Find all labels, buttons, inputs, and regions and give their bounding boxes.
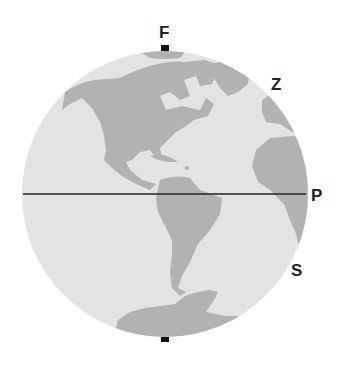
- south-pole-marker: [161, 337, 169, 342]
- label-s: S: [291, 262, 302, 279]
- caribbean-island: [185, 166, 189, 170]
- label-z: Z: [271, 76, 281, 93]
- globe-diagram: [0, 0, 342, 368]
- label-f: F: [159, 24, 169, 41]
- label-p: P: [311, 187, 322, 204]
- north-pole-marker: [161, 45, 169, 51]
